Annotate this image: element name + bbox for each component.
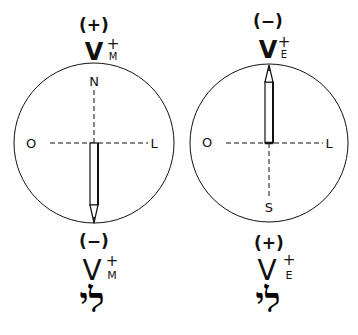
right-top-sign: (−) bbox=[253, 11, 283, 31]
right-bottom-superscript: + bbox=[283, 251, 296, 269]
left-west-label: O bbox=[26, 136, 36, 151]
right-top-subscript: E bbox=[281, 49, 287, 60]
right-west-label: O bbox=[202, 135, 212, 150]
right-needle-icon bbox=[265, 65, 273, 143]
left-north-label: N bbox=[89, 74, 99, 89]
right-bottom-subscript: E bbox=[286, 269, 293, 282]
right-east-label: L bbox=[325, 136, 333, 151]
right-south-label: S bbox=[265, 200, 273, 215]
left-top-symbol: V bbox=[85, 38, 104, 66]
left-bottom-superscript: + bbox=[106, 252, 119, 270]
left-east-label: L bbox=[150, 136, 158, 151]
left-bottom-sign: (−) bbox=[79, 231, 109, 251]
left-bottom-subscript: M bbox=[107, 269, 117, 282]
left-panel: (+) V + M N O L (−) V + M לי bbox=[14, 15, 174, 320]
left-needle-icon bbox=[90, 143, 98, 223]
right-bottom-sign: (+) bbox=[254, 233, 284, 253]
left-top-sign: (+) bbox=[79, 15, 109, 35]
left-hebrew-glyph: לי bbox=[80, 280, 105, 320]
right-hebrew-glyph: לי bbox=[256, 280, 281, 320]
diagram-canvas: (+) V + M N O L (−) V + M לי (−) V + E O… bbox=[0, 0, 358, 335]
left-top-subscript: M bbox=[109, 51, 118, 62]
right-panel: (−) V + E O L S (+) V + E לי bbox=[190, 11, 348, 320]
right-top-symbol: V bbox=[259, 36, 278, 64]
